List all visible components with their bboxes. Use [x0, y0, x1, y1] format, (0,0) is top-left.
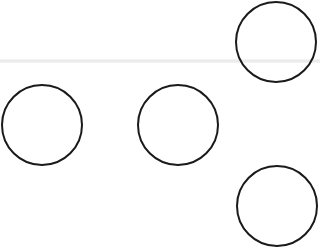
- circle-top-right: [236, 2, 316, 82]
- circle-middle-left: [2, 85, 82, 165]
- circle-middle-center: [138, 85, 218, 165]
- circle-bottom-right: [237, 166, 317, 246]
- circles-layer: [0, 0, 320, 249]
- diagram-canvas: [0, 0, 320, 249]
